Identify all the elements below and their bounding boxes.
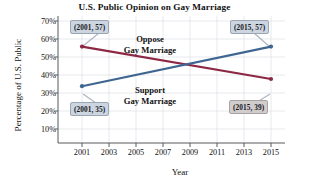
series-label-support-line1: Support	[135, 85, 165, 95]
data-point-oppose-2001	[80, 45, 84, 49]
series-label-oppose-line2: Gay Marriage	[124, 45, 176, 55]
data-point-support-2015	[269, 45, 273, 49]
chart-figure: U.S. Public Opinion on Gay Marriage Perc…	[0, 0, 309, 182]
annotation-support-2001: (2001, 35)	[70, 102, 109, 116]
series-label-support: Support Gay Marriage	[108, 85, 192, 106]
series-label-oppose: Oppose Gay Marriage	[108, 34, 192, 55]
x-axis-ticks	[82, 143, 271, 147]
data-point-support-2001	[80, 84, 84, 88]
series-label-oppose-line1: Oppose	[136, 34, 164, 44]
annotation-oppose-2015: (2015, 39)	[229, 100, 268, 114]
annotation-support-2015: (2015, 57)	[230, 20, 269, 34]
series-label-support-line2: Gay Marriage	[124, 96, 176, 106]
annotation-oppose-2001: (2001, 57)	[70, 20, 109, 34]
y-axis-ticks	[54, 21, 58, 129]
data-point-oppose-2015	[269, 77, 273, 81]
